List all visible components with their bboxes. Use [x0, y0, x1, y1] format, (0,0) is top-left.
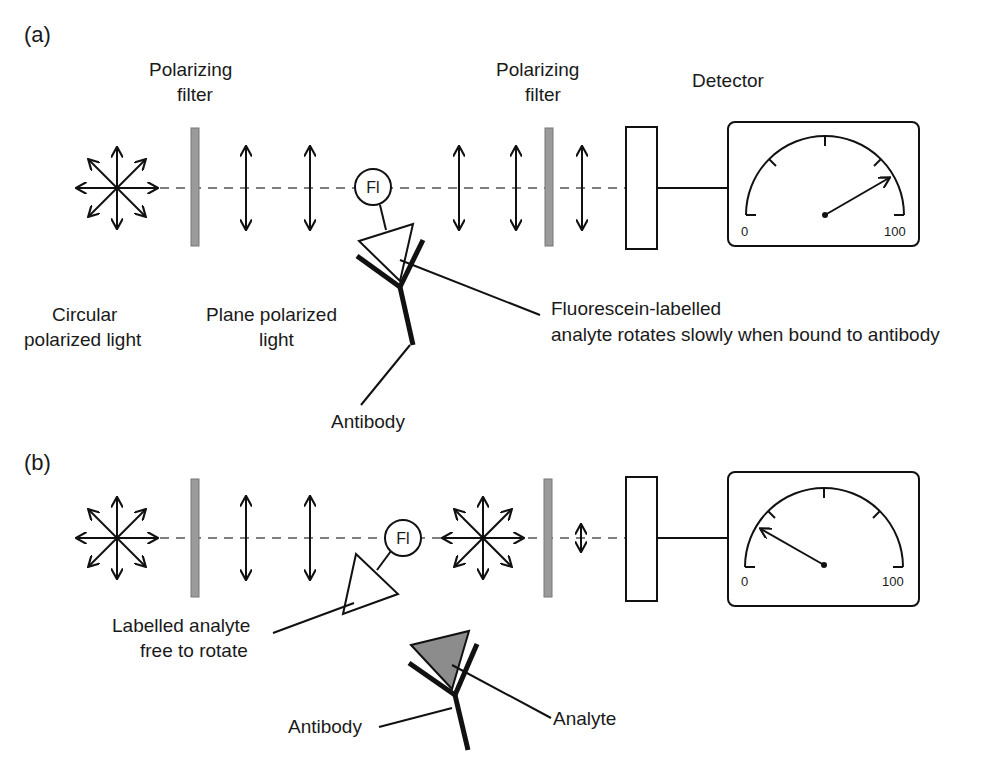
filter2-label-line1: Polarizing [496, 59, 579, 80]
panel-b: (b) Fl Labelled analyte free to rotate [24, 450, 919, 750]
analyte-leader [452, 665, 551, 718]
callout-line2: analyte rotates slowly when bound to ant… [551, 324, 940, 345]
bound-labelled-analyte: Fl [355, 169, 413, 281]
gauge-min-label: 0 [741, 224, 748, 239]
gauge-max-label: 100 [884, 224, 906, 239]
analyte-antibody-complex [409, 631, 477, 750]
plane-label-line2: light [259, 329, 295, 350]
gauge-max-label: 100 [882, 574, 904, 589]
polarizing-filter-1 [191, 128, 199, 246]
depolarized-emission-icon [443, 498, 523, 578]
polarizing-filter-2 [544, 479, 552, 597]
filter2-label-line2: filter [525, 84, 562, 105]
free-label-line2: free to rotate [140, 640, 248, 661]
callout-line1: Fluorescein-labelled [551, 298, 721, 319]
detector-label: Detector [692, 70, 764, 91]
circular-polarized-light-icon [77, 498, 157, 578]
antibody-label-a: Antibody [331, 411, 405, 432]
fluorophore-label: Fl [366, 179, 379, 196]
free-analyte-leader [273, 603, 354, 633]
photodetector [626, 477, 657, 601]
callout-leader [400, 260, 540, 315]
antibody-leader [379, 708, 452, 727]
gauge-min-label: 0 [741, 574, 748, 589]
panel-a: (a) Polarizing filter Polarizing filter … [24, 22, 940, 432]
panel-b-label: (b) [24, 450, 51, 475]
filter1-label-line2: filter [177, 84, 214, 105]
fluorophore-label: Fl [396, 530, 409, 547]
photodetector [626, 127, 657, 249]
free-label-line1: Labelled analyte [112, 615, 250, 636]
analyte-label: Analyte [553, 708, 616, 729]
gauge-a: 0 100 [728, 122, 919, 246]
circular-label-line1: Circular [52, 304, 118, 325]
polarizing-filter-1 [191, 479, 199, 597]
filter1-label-line1: Polarizing [149, 59, 232, 80]
free-labelled-analyte: Fl [343, 520, 421, 614]
gauge-b: 0 100 [728, 472, 919, 606]
panel-a-label: (a) [24, 22, 51, 47]
plane-label-line1: Plane polarized [206, 304, 337, 325]
fpia-diagram: (a) Polarizing filter Polarizing filter … [0, 0, 997, 772]
antibody-leader [361, 345, 410, 405]
antibody-label-b: Antibody [288, 716, 362, 737]
circular-polarized-light-icon [77, 148, 157, 228]
polarizing-filter-2 [545, 128, 553, 246]
circular-label-line2: polarized light [24, 329, 142, 350]
